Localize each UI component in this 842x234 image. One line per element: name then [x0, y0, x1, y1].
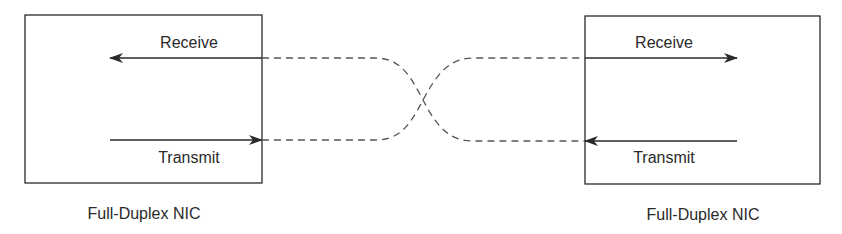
left-nic: Receive Transmit Full-Duplex NIC [25, 15, 262, 222]
full-duplex-diagram: Receive Transmit Full-Duplex NIC Receive… [0, 0, 842, 234]
left-nic-box [25, 15, 262, 183]
right-transmit-label: Transmit [633, 149, 695, 166]
transmit-to-receive-path [262, 58, 585, 140]
right-receive-label: Receive [635, 34, 693, 51]
left-receive-label: Receive [160, 34, 218, 51]
right-nic: Receive Transmit Full-Duplex NIC [585, 16, 820, 223]
left-transmit-label: Transmit [158, 149, 220, 166]
right-nic-box [585, 16, 820, 184]
left-nic-caption: Full-Duplex NIC [88, 205, 201, 222]
crossover-cable [262, 58, 585, 141]
right-nic-caption: Full-Duplex NIC [647, 206, 760, 223]
